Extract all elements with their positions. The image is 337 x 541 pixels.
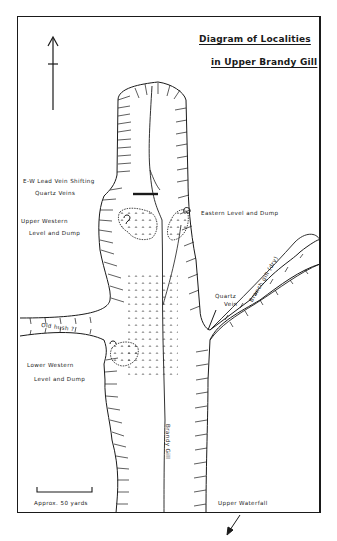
label-quartz-veins: Quartz Veins [35, 190, 75, 196]
label-ew-lead-vein: E-W Lead Vein Shifting [23, 178, 95, 184]
valley-map [0, 0, 337, 541]
label-lower-western-2: Level and Dump [34, 376, 85, 382]
label-brandy-gill: Brandy Gill [165, 424, 171, 459]
branch-gill-outline [210, 234, 320, 340]
waterfall-arrow-icon [227, 515, 240, 535]
upper-western-dump [118, 208, 157, 239]
scree-area [128, 270, 178, 380]
label-upper-western-1: Upper Western [21, 218, 68, 224]
label-upper-western-2: Level and Dump [29, 230, 80, 236]
label-scale: Approx. 50 yards [34, 500, 88, 506]
label-eastern-level: Eastern Level and Dump [201, 210, 279, 216]
north-arrow-icon [48, 37, 58, 110]
eastern-dump [168, 208, 191, 240]
scale-bar [37, 487, 92, 492]
label-quartz-vein-1: Quartz [215, 293, 236, 299]
label-upper-waterfall: Upper Waterfall [218, 500, 268, 506]
diagram-title-line2: in Upper Brandy Gill [211, 57, 317, 67]
label-lower-western-1: Lower Western [27, 362, 74, 368]
label-quartz-vein-2: Vein [224, 301, 238, 307]
diagram-title-line1: Diagram of Localities [199, 34, 311, 44]
